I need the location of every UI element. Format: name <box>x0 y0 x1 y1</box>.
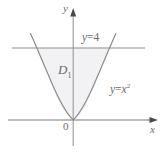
label-parabola: y=x2 <box>110 84 130 96</box>
y-axis-arrowhead <box>70 8 76 17</box>
figure-container: y=4 y=x2 D1 y x 0 <box>0 0 166 153</box>
x-axis-label: x <box>150 124 155 135</box>
label-horizontal-line: y=4 <box>82 32 99 44</box>
plot-canvas <box>0 0 166 153</box>
y-axis-label: y <box>63 3 68 14</box>
label-region-d1: D1 <box>58 63 71 76</box>
label-y4-rhs: 4 <box>94 31 100 43</box>
label-yx2-exponent: 2 <box>127 82 131 90</box>
origin-label: 0 <box>63 121 69 132</box>
label-region-subscript: 1 <box>67 71 71 80</box>
label-region-base: D <box>58 62 67 77</box>
